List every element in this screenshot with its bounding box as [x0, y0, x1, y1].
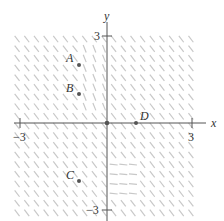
slope-segment	[34, 84, 39, 90]
slope-segment	[140, 123, 145, 129]
slope-segment	[44, 94, 49, 100]
slope-segment	[82, 181, 87, 187]
slope-segment	[160, 152, 165, 158]
slope-segment	[140, 171, 145, 177]
slope-segment	[150, 152, 155, 158]
slope-segment	[188, 210, 193, 216]
slope-segment	[169, 152, 174, 158]
slope-segment	[150, 171, 155, 177]
slope-segment	[119, 164, 127, 165]
slope-segment	[102, 200, 107, 206]
slope-segment	[179, 132, 184, 138]
slope-segment	[140, 94, 145, 100]
slope-segment	[188, 36, 193, 42]
slope-segment	[24, 84, 29, 90]
slope-segment	[179, 36, 184, 42]
point-d	[134, 121, 138, 125]
slope-segment	[160, 123, 165, 129]
slope-segment	[111, 152, 116, 158]
slope-segment	[150, 46, 155, 52]
slope-segment	[63, 36, 68, 42]
slope-segment	[160, 84, 165, 90]
point-c	[77, 179, 81, 183]
slope-segment	[179, 123, 184, 129]
slope-segment	[34, 65, 39, 71]
slope-segment	[103, 93, 106, 100]
slope-segment	[34, 123, 39, 129]
slope-segment	[111, 113, 116, 119]
slope-segment	[73, 200, 78, 206]
slope-segment	[44, 210, 49, 216]
slope-segment	[140, 200, 145, 206]
slope-segment	[34, 161, 39, 167]
slope-segment	[34, 152, 39, 158]
x-tick-label-3: 3	[188, 130, 194, 144]
slope-segment	[34, 181, 39, 187]
slope-segment	[160, 210, 165, 216]
slope-segment	[82, 123, 87, 129]
slope-segment	[34, 94, 39, 100]
point-b	[77, 92, 81, 96]
slope-segment	[150, 113, 155, 119]
slope-segment	[111, 104, 116, 110]
slope-segment	[93, 93, 96, 100]
slope-segment	[169, 104, 174, 110]
slope-segment	[73, 161, 78, 167]
slope-segment	[24, 104, 29, 110]
slope-segment	[179, 171, 184, 177]
slope-segment	[15, 46, 20, 52]
slope-segment	[53, 142, 58, 148]
slope-segment	[53, 200, 58, 206]
slope-segment	[53, 36, 58, 42]
slope-segment	[82, 132, 87, 138]
slope-segment	[111, 55, 116, 61]
slope-segment	[150, 200, 155, 206]
slope-segment	[131, 104, 136, 110]
slope-segment	[44, 36, 49, 42]
slope-segment	[44, 113, 49, 119]
slope-segment	[93, 74, 96, 81]
slope-segment	[15, 190, 20, 196]
slope-segment	[111, 132, 116, 138]
slope-segment	[103, 74, 106, 81]
slope-segment	[102, 171, 107, 177]
slope-segment	[15, 123, 20, 129]
slope-segment	[73, 75, 78, 81]
origin-point	[105, 121, 110, 126]
slope-segment	[102, 152, 107, 158]
slope-segment	[44, 46, 49, 52]
slope-segment	[111, 36, 116, 42]
slope-segment	[15, 104, 20, 110]
y-tick-label-neg3: −3	[86, 203, 99, 217]
slope-segment	[160, 104, 165, 110]
slope-segment	[150, 55, 155, 61]
slope-segment	[179, 181, 184, 187]
slope-segment	[160, 171, 165, 177]
slope-segment	[129, 184, 137, 185]
slope-segment	[131, 84, 136, 90]
slope-segment	[131, 210, 136, 216]
slope-segment	[83, 84, 86, 91]
slope-segment	[44, 152, 49, 158]
slope-segment	[82, 152, 87, 158]
slope-segment	[63, 200, 68, 206]
slope-segment	[44, 142, 49, 148]
slope-segment	[160, 65, 165, 71]
slope-segment	[103, 64, 106, 71]
point-b-label: B	[66, 81, 74, 95]
slope-segment	[131, 36, 136, 42]
slope-segment	[179, 142, 184, 148]
slope-segment	[150, 190, 155, 196]
slope-segment	[93, 64, 96, 71]
slope-segment	[169, 113, 174, 119]
slope-segment	[169, 123, 174, 129]
slope-segment	[150, 84, 155, 90]
slope-segment	[121, 200, 126, 206]
slope-segment	[188, 152, 193, 158]
slope-segment	[150, 104, 155, 110]
slope-field-plot: x y −3 3 3 −3 A B C D	[0, 0, 224, 221]
slope-segment	[92, 161, 97, 167]
slope-segment	[121, 123, 126, 129]
slope-segment	[140, 190, 145, 196]
slope-segment	[24, 210, 29, 216]
